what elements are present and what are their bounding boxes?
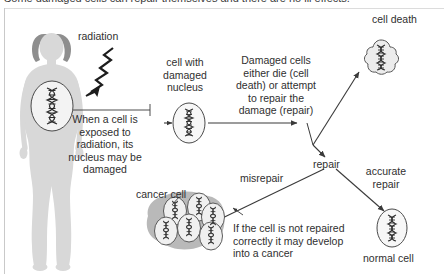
label-repair: repair xyxy=(313,158,340,171)
label-misrepair: misrepair xyxy=(240,172,283,185)
exposure-line-4: nucleus may be xyxy=(55,151,155,164)
label-cancer-cell: cancer cell xyxy=(136,188,186,201)
accurate-repair-line-1: accurate xyxy=(357,165,415,178)
cancer-line-1: If the cell is not repaired xyxy=(233,222,368,235)
text-block-outcomes: Damaged cells either die (cell death) or… xyxy=(224,54,328,117)
outcomes-line-3: death) or attempt xyxy=(224,79,328,92)
exposure-line-5: damaged xyxy=(55,163,155,176)
outcomes-line-1: Damaged cells xyxy=(224,54,328,67)
label-line-2: damaged xyxy=(150,69,220,82)
label-line-3: nucleus xyxy=(150,81,220,94)
arrow-to-repair xyxy=(313,145,325,157)
outcomes-line-4: to repair the xyxy=(224,92,328,105)
text-block-cancer: If the cell is not repaired correctly it… xyxy=(233,222,368,260)
outcomes-line-5: damage (repair) xyxy=(224,104,328,117)
outcomes-line-2: either die (cell xyxy=(224,67,328,80)
cancer-line-2: correctly it may develop xyxy=(233,235,368,248)
zigzag-radiation-arrow-icon xyxy=(86,48,113,96)
exposure-line-1: When a cell is xyxy=(55,113,155,126)
label-line-1: cell with xyxy=(150,56,220,69)
label-cell-death: cell death xyxy=(372,13,417,26)
exposure-line-2: exposed to xyxy=(55,126,155,139)
dying-cell-blob-icon xyxy=(364,40,398,74)
branch-stem xyxy=(307,123,313,145)
cancer-line-3: into a cancer xyxy=(233,247,368,260)
diagram-canvas: Some damaged cells can repair themselves… xyxy=(0,0,444,274)
text-block-exposure: When a cell is exposed to radiation, its… xyxy=(55,113,155,176)
exposure-line-3: radiation, its xyxy=(55,138,155,151)
label-cell-with-damaged-nucleus: cell with damaged nucleus xyxy=(150,56,220,94)
label-normal-cell: normal cell xyxy=(363,252,414,265)
normal-cell-with-dna-icon xyxy=(377,209,407,247)
label-accurate-repair: accurate repair xyxy=(357,165,415,190)
label-radiation: radiation xyxy=(78,30,118,43)
cell-with-damaged-dna-icon xyxy=(164,103,205,143)
accurate-repair-line-2: repair xyxy=(357,178,415,191)
